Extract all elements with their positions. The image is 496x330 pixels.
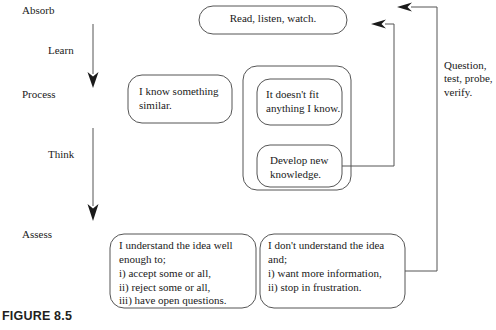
flow-arrow-learn — [88, 24, 99, 88]
figure-8-5-diagram: Absorb Process Assess Learn Think Questi… — [0, 0, 496, 330]
side-note-question-test-probe-verify: Question, test, probe, verify. — [444, 59, 493, 99]
node-text-i-understand-the-idea: I understand the idea well enough to; i)… — [119, 239, 255, 308]
feedback-loop-inner — [342, 20, 394, 167]
transition-label-learn: Learn — [48, 44, 74, 56]
node-text-develop-new-knowledge: Develop new knowledge. — [270, 154, 346, 182]
stage-label-assess: Assess — [22, 228, 52, 240]
flow-arrow-think — [88, 128, 99, 221]
feedback-loop-outer — [397, 3, 437, 272]
node-text-it-doesnt-fit: It doesn't fit anything I know. — [266, 88, 344, 116]
node-text-i-dont-understand-the-idea: I don't understand the idea and; i) want… — [268, 239, 404, 294]
node-text-read-listen-watch: Read, listen, watch. — [212, 12, 334, 26]
node-text-i-know-something-similar: I know something similar. — [139, 85, 231, 113]
figure-caption: FIGURE 8.5 — [2, 309, 72, 323]
transition-label-think: Think — [48, 148, 74, 160]
stage-label-process: Process — [22, 88, 56, 100]
stage-label-absorb: Absorb — [22, 4, 54, 16]
